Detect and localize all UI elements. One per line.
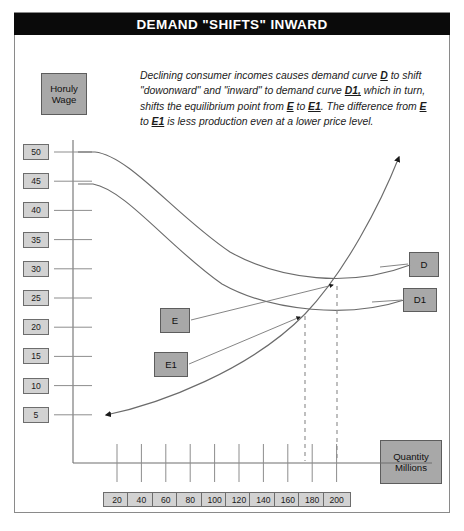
plot-canvas [0, 0, 464, 531]
leader-line-d [380, 264, 408, 267]
demand-curve-d [78, 152, 410, 278]
leader-arrow-e1 [189, 317, 300, 364]
leader-arrow-e [191, 285, 333, 320]
demand-curve-d1 [78, 184, 404, 310]
supply-curve [106, 157, 399, 415]
figure-page: DEMAND "SHIFTS" INWARD Declining consume… [0, 0, 464, 531]
